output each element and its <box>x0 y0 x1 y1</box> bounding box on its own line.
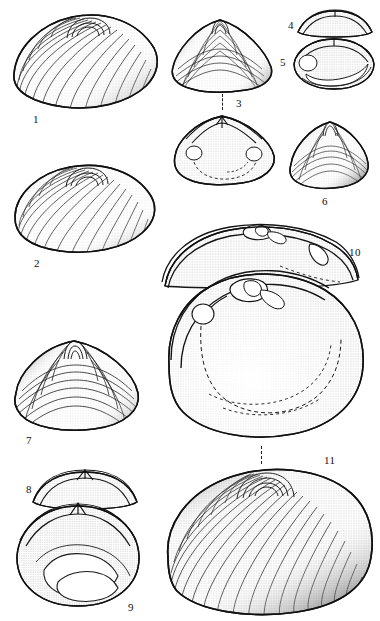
figure-10-interior <box>165 268 367 446</box>
figure-label-4: 4 <box>288 20 294 31</box>
figure-2-shell <box>12 160 157 258</box>
fig3-connector <box>222 94 223 110</box>
figure-label-3: 3 <box>236 98 242 109</box>
figure-6-shell <box>288 118 370 190</box>
illustration-plate: 1 <box>0 0 380 621</box>
figure-label-1: 1 <box>33 114 39 125</box>
figure-label-9: 9 <box>128 602 134 613</box>
figure-7-shell <box>12 337 142 433</box>
figure-3-shell <box>170 15 275 93</box>
figure-label-7: 7 <box>26 435 32 446</box>
figure-label-11: 11 <box>324 455 336 466</box>
figure-9-interior <box>14 500 142 610</box>
figure-1-shell <box>10 8 160 112</box>
figure-11-shell <box>163 465 375 617</box>
figure-3-interior <box>172 112 277 187</box>
figure-4-hinge <box>296 8 374 38</box>
figure-label-2: 2 <box>34 258 40 269</box>
figure-label-8: 8 <box>26 484 32 495</box>
fig11-connector <box>261 446 262 464</box>
figure-label-5: 5 <box>280 57 286 68</box>
figure-label-6: 6 <box>322 196 328 207</box>
figure-5-interior <box>292 36 376 92</box>
figure-label-10: 10 <box>349 247 361 258</box>
